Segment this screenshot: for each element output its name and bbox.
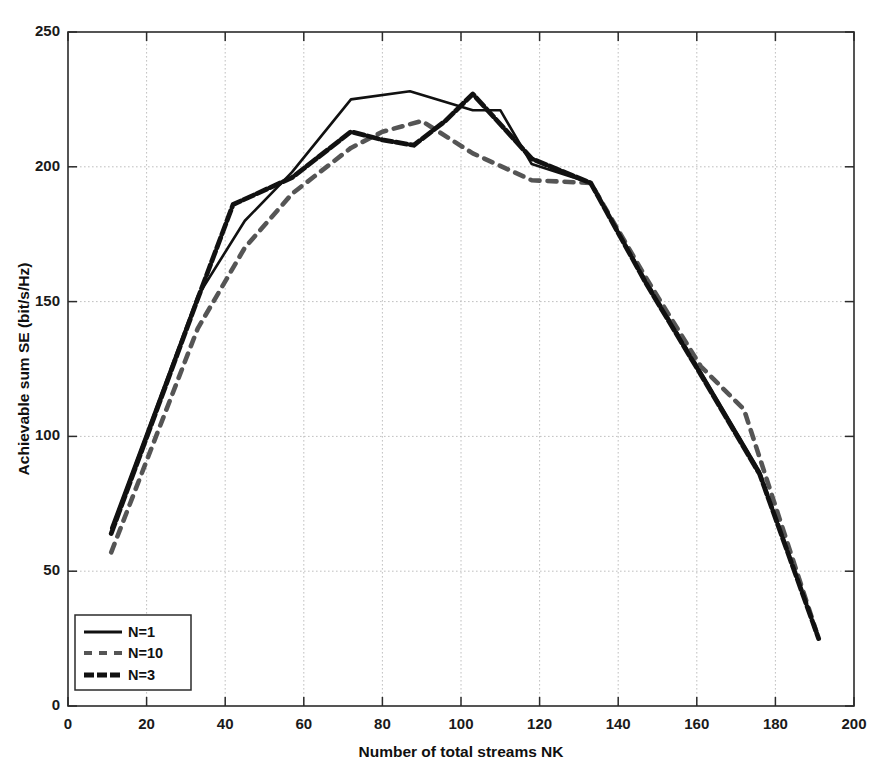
chart-figure: 020406080100120140160180200 050100150200… (0, 0, 877, 781)
y-tick-label: 150 (35, 292, 60, 309)
x-tick-label: 100 (448, 715, 473, 732)
x-tick-labels: 020406080100120140160180200 (64, 715, 867, 732)
legend-label-n3: N=3 (128, 667, 155, 683)
y-tick-labels: 050100150200250 (35, 22, 60, 713)
x-axis-title: Number of total streams NK (359, 743, 565, 760)
x-tick-label: 120 (527, 715, 552, 732)
x-tick-label: 0 (64, 715, 72, 732)
series-line-n10 (111, 121, 818, 639)
y-tick-label: 250 (35, 22, 60, 39)
series-line-n1 (111, 91, 818, 638)
x-tick-label: 140 (606, 715, 631, 732)
grid-lines (68, 32, 854, 706)
x-tick-label: 60 (295, 715, 312, 732)
x-tick-label: 40 (217, 715, 234, 732)
y-tick-label: 200 (35, 157, 60, 174)
x-tick-label: 20 (138, 715, 155, 732)
x-tick-label: 160 (684, 715, 709, 732)
achievable-sum-se-line-chart: 020406080100120140160180200 050100150200… (0, 0, 877, 781)
legend: N=1 N=10 N=3 (75, 615, 191, 690)
y-axis-title: Achievable sum SE (bit/s/Hz) (15, 263, 32, 476)
series-line-n3 (111, 94, 818, 639)
y-tick-label: 50 (43, 561, 60, 578)
y-tick-label: 0 (52, 696, 60, 713)
x-tick-label: 80 (374, 715, 391, 732)
legend-label-n10: N=10 (128, 645, 163, 661)
data-series (111, 91, 818, 638)
legend-label-n1: N=1 (128, 624, 155, 640)
x-tick-label: 200 (841, 715, 866, 732)
y-tick-label: 100 (35, 426, 60, 443)
x-tick-label: 180 (763, 715, 788, 732)
